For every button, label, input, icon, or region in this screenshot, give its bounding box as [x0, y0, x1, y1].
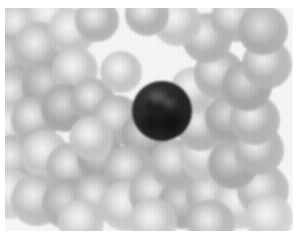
chromatin-clump	[160, 112, 182, 131]
blood-smear-micrograph	[5, 8, 293, 231]
nucleus-highlight	[164, 99, 175, 107]
nucleus-highlight	[150, 92, 166, 103]
figure-container	[0, 0, 302, 244]
chromatin-clump	[143, 115, 160, 131]
erythrocyte-cell	[69, 116, 113, 160]
erythrocyte-cell	[100, 51, 142, 93]
leukocyte-cell	[132, 81, 192, 141]
